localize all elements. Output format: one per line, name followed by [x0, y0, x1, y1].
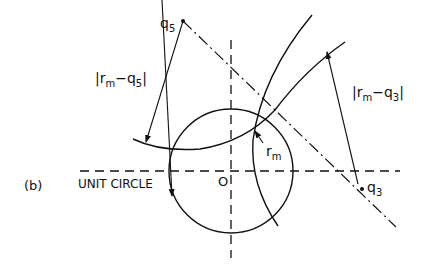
q5-label: q5 [160, 15, 175, 34]
origin-label: O [218, 174, 228, 189]
diagram-canvas: q5 q3 rm O UNIT CIRCLE (b) |rm−q5| |rm−q… [0, 0, 422, 271]
q3-point [360, 187, 364, 191]
unit-circle-label: UNIT CIRCLE [78, 177, 153, 191]
panel-label: (b) [24, 178, 42, 193]
q3-distance-label: |rm−q3| [352, 84, 404, 103]
q5-point [181, 19, 185, 23]
arc-around-q3 [253, 15, 312, 226]
rm-label: rm [266, 143, 282, 162]
q3-label: q3 [367, 179, 382, 198]
q5-distance-label: |rm−q5| [95, 70, 147, 89]
rm-pointer-arrow [255, 131, 263, 143]
q5-q3-dashdot-line [183, 21, 396, 227]
